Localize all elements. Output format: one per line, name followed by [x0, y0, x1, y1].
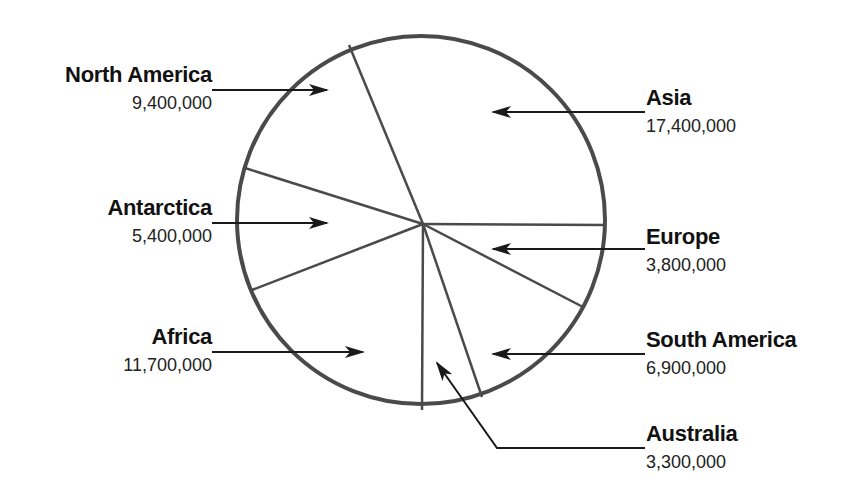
- label-value-north-america: 9,400,000: [132, 93, 212, 113]
- label-name-antarctica: Antarctica: [107, 195, 213, 220]
- label-value-antarctica: 5,400,000: [132, 226, 212, 246]
- callout-north-america: North America9,400,000: [65, 62, 327, 113]
- slice-border-north-america-asia: [349, 45, 423, 224]
- slice-border-australia-africa: [422, 224, 423, 410]
- callout-africa: Africa11,700,000: [123, 324, 363, 375]
- label-value-south-america: 6,900,000: [646, 358, 726, 378]
- callout-south-america: South America6,900,000: [493, 327, 798, 378]
- label-name-europe: Europe: [646, 224, 720, 249]
- label-name-south-america: South America: [646, 327, 798, 352]
- label-value-asia: 17,400,000: [646, 116, 736, 136]
- callout-europe: Europe3,800,000: [493, 224, 726, 275]
- label-name-asia: Asia: [646, 85, 692, 110]
- callout-antarctica: Antarctica5,400,000: [107, 195, 327, 246]
- pie-chart: North America9,400,000Antarctica5,400,00…: [0, 0, 864, 500]
- label-name-australia: Australia: [646, 421, 739, 446]
- label-name-north-america: North America: [65, 62, 213, 87]
- label-name-africa: Africa: [151, 324, 213, 349]
- callout-asia: Asia17,400,000: [493, 85, 736, 136]
- label-value-africa: 11,700,000: [123, 355, 212, 375]
- arrow-icon: [437, 363, 645, 448]
- slice-border-africa-antarctica: [252, 224, 423, 290]
- slice-border-antarctica-north-america: [245, 168, 423, 224]
- label-value-europe: 3,800,000: [646, 255, 726, 275]
- slice-border-asia-europe: [423, 224, 606, 225]
- label-value-australia: 3,300,000: [646, 452, 726, 472]
- callout-australia: Australia3,300,000: [437, 363, 739, 472]
- callout-labels: North America9,400,000Antarctica5,400,00…: [65, 62, 797, 472]
